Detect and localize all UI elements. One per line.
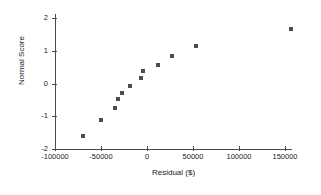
data-point [139,76,143,80]
data-point [141,69,145,73]
data-point [194,44,198,48]
data-point [289,27,293,31]
data-point [170,54,174,58]
plot-area [55,14,290,150]
data-point [81,134,85,138]
y-tick-label: 2 [22,14,48,22]
x-axis-title: Residual ($) [55,168,292,177]
y-axis-title: Normal Score [17,18,26,104]
y-tick-label: -1 [22,112,48,120]
data-point [99,118,103,122]
data-point [120,91,124,95]
x-tick-label: 150000 [257,153,313,161]
y-tick-label: 1 [22,47,48,55]
y-tick-label: 0 [22,80,48,88]
data-point [116,97,120,101]
data-point [113,106,117,110]
normal-probability-plot: -2-1012 -100000-50000050000100000150000 … [0,0,321,195]
data-point [128,84,132,88]
data-point [156,63,160,67]
